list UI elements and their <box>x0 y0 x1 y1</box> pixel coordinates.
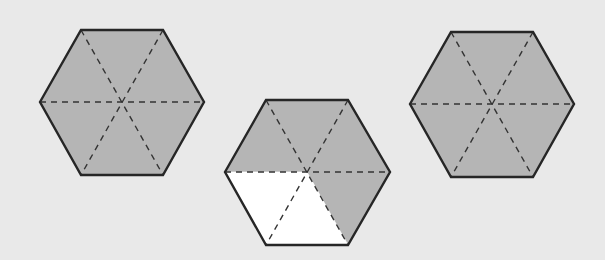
hexagon-middle-four-sixths-shaded <box>225 100 390 245</box>
hexagon-left-fully-shaded <box>40 30 204 175</box>
hexagon-fraction-diagram <box>0 0 605 260</box>
hexagon-right-fully-shaded <box>410 32 574 177</box>
